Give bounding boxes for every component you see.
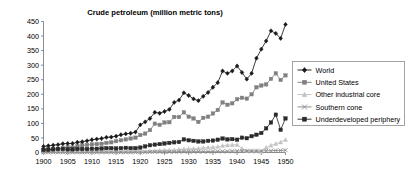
legend-label: Other industrial core [316,90,381,99]
x-axis-tick-label: 1900 [36,157,52,166]
legend-label: Southern cone [316,103,363,112]
x-axis-tick-label: 1905 [60,157,76,166]
y-axis-tick-label: 300 [27,61,39,70]
x-axis-tick-label: 1910 [84,157,100,166]
y-axis-tick-label: 400 [27,32,39,41]
y-axis-tick-label: 450 [27,17,39,26]
chart-title: Crude petroleum (million metric tons) [87,8,223,17]
y-axis-tick-label: 200 [27,90,39,99]
x-axis-tick-label: 1925 [157,157,173,166]
y-axis-tick-label: 350 [27,46,39,55]
y-axis-tick-label: 50 [31,134,39,143]
legend-label: United States [316,78,360,87]
y-axis-tick-label: 100 [27,119,39,128]
y-axis-tick-label: 150 [27,104,39,113]
chart-legend: WorldUnited StatesOther industrial coreS… [293,62,405,126]
x-axis-tick-label: 1930 [181,157,197,166]
chart-container: Crude petroleum (million metric tons) 05… [0,0,412,179]
x-axis-tick-label: 1945 [253,157,269,166]
x-axis-tick-label: 1920 [132,157,148,166]
x-axis-tick-label: 1940 [229,157,245,166]
legend-label: Underdeveloped periphery [316,115,401,124]
legend-label: World [316,66,335,75]
x-axis-tick-label: 1935 [205,157,221,166]
y-axis-tick-label: 250 [27,75,39,84]
x-axis-tick-label: 1950 [278,157,294,166]
x-axis-tick-label: 1915 [108,157,124,166]
crude-petroleum-line-chart: Crude petroleum (million metric tons) 05… [0,0,412,179]
